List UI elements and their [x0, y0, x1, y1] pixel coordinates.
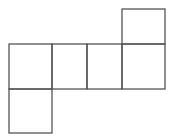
net-square-row-1: [9, 44, 52, 89]
net-square-row-4: [122, 44, 165, 89]
cube-net-diagram: [0, 0, 177, 140]
net-square-bottom: [9, 89, 52, 133]
net-square-row-2: [52, 44, 87, 89]
net-square-top: [122, 9, 165, 44]
net-square-row-3: [87, 44, 122, 89]
